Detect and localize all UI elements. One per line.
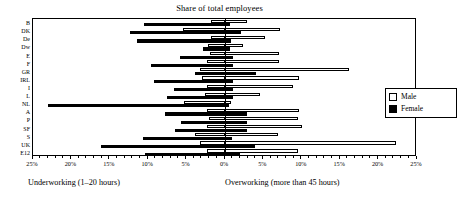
x-minor-tick (116, 156, 117, 158)
x-minor-tick (293, 156, 294, 158)
table-row: F (33, 60, 415, 68)
x-tick (300, 156, 301, 159)
x-minor-tick (47, 156, 48, 158)
x-tick (108, 156, 109, 159)
bar-female-overworking-dk (225, 31, 241, 34)
bar-female-underworking-p (181, 121, 225, 124)
x-minor-tick (208, 156, 209, 158)
bar-female-underworking-de (137, 39, 225, 42)
category-label-gr: GR (22, 69, 30, 75)
legend-label-male: Male (401, 93, 416, 101)
table-row: GR (33, 68, 415, 76)
x-minor-tick (254, 156, 255, 158)
bar-female-overworking-p (225, 121, 247, 124)
bar-female-underworking-uk (101, 145, 225, 148)
x-tick (70, 156, 71, 159)
x-minor-tick (369, 156, 370, 158)
x-minor-tick (62, 156, 63, 158)
legend-label-female: Female (401, 105, 423, 113)
table-row: I (33, 84, 415, 92)
bar-female-overworking-nl (225, 104, 229, 107)
table-row: UK (33, 141, 415, 149)
bar-male-overworking-irl (225, 76, 299, 79)
x-tick-label: 10% (295, 160, 306, 167)
x-minor-tick (323, 156, 324, 158)
x-tick (185, 156, 186, 159)
x-minor-tick (154, 156, 155, 158)
x-minor-tick (85, 156, 86, 158)
table-row: L (33, 92, 415, 100)
x-minor-tick (101, 156, 102, 158)
x-minor-tick (193, 156, 194, 158)
bar-female-underworking-a (165, 112, 225, 115)
bar-male-overworking-i (225, 85, 293, 88)
x-minor-tick (139, 156, 140, 158)
x-tick-label: 15% (334, 160, 345, 167)
bar-female-overworking-e (225, 56, 233, 59)
bar-female-overworking-a (225, 112, 247, 115)
x-minor-tick (39, 156, 40, 158)
chart-title: Share of total employees (0, 3, 439, 13)
legend: Male Female (385, 88, 457, 118)
category-label-dw: Dw (21, 44, 30, 50)
table-row: S (33, 133, 415, 141)
bar-female-overworking-f (225, 64, 233, 67)
x-tick-label: 0% (220, 160, 228, 167)
bar-female-overworking-de (225, 39, 231, 42)
category-label-f: F (27, 61, 30, 67)
legend-item-female: Female (389, 103, 453, 115)
bar-female-underworking-nl (48, 104, 225, 107)
x-minor-tick (362, 156, 363, 158)
x-minor-tick (247, 156, 248, 158)
bar-male-overworking-f (225, 60, 279, 63)
bar-female-underworking-s (143, 137, 225, 140)
category-label-a: A (26, 109, 30, 115)
category-label-dk: DK (21, 28, 30, 34)
x-tick (339, 156, 340, 159)
bar-female-overworking-l (225, 96, 233, 99)
table-row: NL (33, 100, 415, 108)
bar-male-overworking-e (225, 52, 279, 55)
bar-female-overworking-b (225, 23, 230, 26)
category-label-de: De (23, 36, 30, 42)
x-minor-tick (408, 156, 409, 158)
bar-female-overworking-irl (225, 80, 233, 83)
x-tick (377, 156, 378, 159)
underworking-axis-label: Underworking (1–20 hours) (28, 178, 120, 187)
category-label-i: I (28, 85, 30, 91)
table-row: De (33, 35, 415, 43)
x-minor-tick (331, 156, 332, 158)
bar-female-underworking-l (167, 96, 225, 99)
bar-male-overworking-s (225, 133, 278, 136)
table-row: DK (33, 27, 415, 35)
x-minor-tick (285, 156, 286, 158)
x-tick-label: 5% (181, 160, 189, 167)
x-minor-tick (124, 156, 125, 158)
overworking-axis-label: Overworking (more than 45 hours) (225, 178, 340, 187)
x-minor-tick (177, 156, 178, 158)
x-tick-label: 20% (65, 160, 76, 167)
x-minor-tick (270, 156, 271, 158)
x-tick-label: 20% (372, 160, 383, 167)
x-minor-tick (78, 156, 79, 158)
bar-female-underworking-dw (203, 47, 225, 50)
x-minor-tick (162, 156, 163, 158)
legend-swatch-male-icon (389, 93, 397, 101)
x-minor-tick (392, 156, 393, 158)
x-minor-tick (200, 156, 201, 158)
x-minor-tick (93, 156, 94, 158)
category-label-e12: E12 (20, 150, 30, 156)
legend-swatch-female-icon (389, 105, 397, 113)
bar-female-underworking-i (174, 88, 225, 91)
x-minor-tick (216, 156, 217, 158)
x-minor-tick (131, 156, 132, 158)
bar-female-overworking-i (225, 88, 233, 91)
table-row: SF (33, 125, 415, 133)
bar-female-underworking-irl (154, 80, 225, 83)
category-label-sf: SF (23, 126, 30, 132)
bar-female-overworking-sf (225, 129, 247, 132)
x-tick (224, 156, 225, 159)
legend-item-male: Male (389, 91, 453, 103)
x-tick (262, 156, 263, 159)
